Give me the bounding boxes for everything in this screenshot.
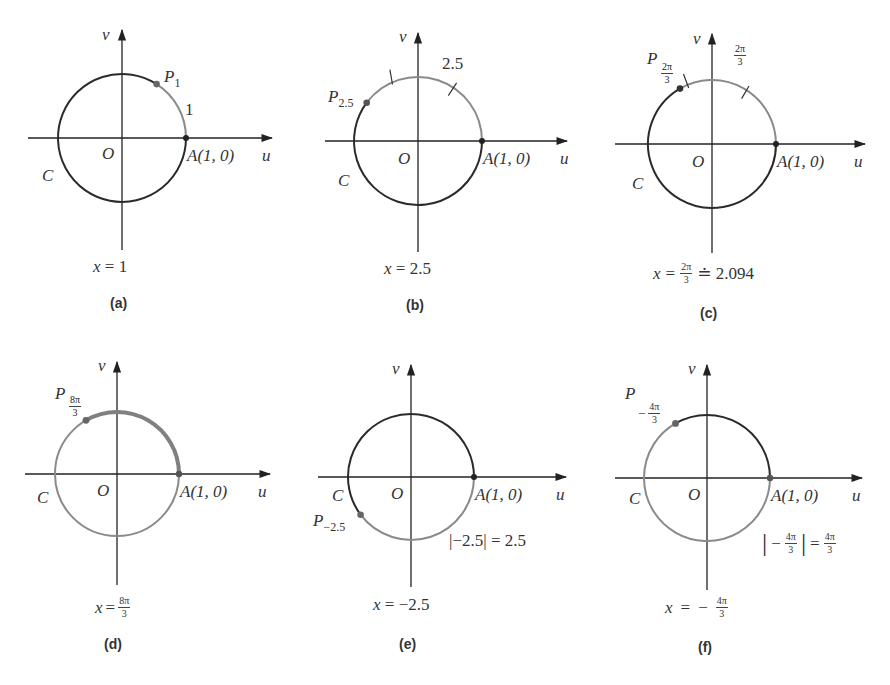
origin-label: O xyxy=(692,153,704,170)
absolute-value-label: |−4π3|=4π3 xyxy=(762,530,836,556)
circle-label: C xyxy=(632,175,643,192)
point-A-label: A(1, 0) xyxy=(771,487,818,504)
arc-length-label: 2.5 xyxy=(442,55,463,72)
circle-label: C xyxy=(332,487,343,504)
v-axis-label: v xyxy=(693,30,701,47)
u-axis-label: u xyxy=(854,153,863,170)
circle-label: C xyxy=(37,489,48,506)
point-P-label: P2.5 xyxy=(328,88,353,105)
u-axis-label: u xyxy=(560,150,569,167)
v-axis-label: v xyxy=(688,360,696,377)
panel-letter-a: (a) xyxy=(110,296,127,310)
circle-label: C xyxy=(42,167,53,184)
v-axis-label: v xyxy=(399,28,407,45)
v-axis-label: v xyxy=(98,357,106,374)
caption-equation: x=−4π3 xyxy=(665,596,728,619)
origin-label: O xyxy=(102,145,114,162)
v-axis-label: v xyxy=(102,26,110,43)
origin-label: O xyxy=(97,482,109,499)
point-P-label: P xyxy=(647,50,657,67)
absolute-value-label: |−2.5| = 2.5 xyxy=(449,532,526,549)
point-P-label: P xyxy=(625,385,635,402)
origin-label: O xyxy=(391,485,403,502)
v-axis-label: v xyxy=(392,360,400,377)
arc-length-label: 1 xyxy=(185,101,194,118)
labels-layer: v u O C A(1, 0) P1 1 x = 1 (a) v u O C A… xyxy=(0,0,890,685)
point-A-label: A(1, 0) xyxy=(187,147,234,164)
panel-letter-b: (b) xyxy=(406,298,424,312)
panel-letter-e: (e) xyxy=(399,637,416,651)
point-P-label: P xyxy=(55,385,65,402)
point-A-label: A(1, 0) xyxy=(483,150,530,167)
panel-letter-d: (d) xyxy=(104,637,122,651)
caption-equation: x = −2.5 xyxy=(373,596,429,613)
circle-label: C xyxy=(629,490,640,507)
caption-equation: x = 2.5 xyxy=(384,260,431,277)
point-P-subscript: −4π3 xyxy=(638,402,660,425)
panel-letter-c: (c) xyxy=(700,306,717,320)
point-P-label: P1 xyxy=(164,68,180,85)
point-A-label: A(1, 0) xyxy=(475,486,522,503)
caption-equation: x = 1 xyxy=(93,258,127,275)
caption-equation: x=2π3≐ 2.094 xyxy=(653,262,754,285)
origin-label: O xyxy=(398,150,410,167)
panel-letter-f: (f) xyxy=(698,640,712,654)
point-P-label: P−2.5 xyxy=(313,512,345,529)
point-P-subscript: 2π3 xyxy=(661,62,673,85)
u-axis-label: u xyxy=(556,486,565,503)
point-P-subscript: 8π3 xyxy=(69,395,81,418)
arc-length-label: 2π3 xyxy=(734,44,746,67)
point-A-label: A(1, 0) xyxy=(777,153,824,170)
u-axis-label: u xyxy=(852,487,861,504)
circle-label: C xyxy=(338,172,349,189)
point-A-label: A(1, 0) xyxy=(180,483,227,500)
u-axis-label: u xyxy=(258,483,267,500)
caption-equation: x=8π3 xyxy=(95,596,130,619)
origin-label: O xyxy=(688,486,700,503)
u-axis-label: u xyxy=(262,147,271,164)
